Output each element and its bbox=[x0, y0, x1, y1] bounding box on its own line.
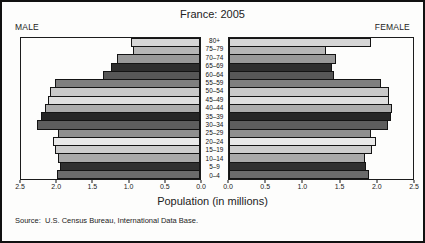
age-label-45-49: 45–49 bbox=[201, 96, 228, 104]
tick-label-2.5: 2.5 bbox=[15, 183, 25, 190]
age-label-70-74: 70–74 bbox=[201, 54, 228, 62]
age-label-80+: 80+ bbox=[201, 37, 228, 45]
tick-label-2.5: 2.5 bbox=[409, 183, 419, 190]
age-label-20-24: 20–24 bbox=[201, 138, 228, 146]
age-label-10-14: 10–14 bbox=[201, 155, 228, 163]
age-label-15-19: 15–19 bbox=[201, 146, 228, 154]
age-label-30-34: 30–34 bbox=[201, 121, 228, 129]
male-x-axis-ticks: 2.52.01.51.00.50.0 bbox=[20, 180, 201, 193]
tick-label-0.5: 0.5 bbox=[160, 183, 170, 190]
male-axis-header: MALE bbox=[15, 22, 39, 32]
tick-label-0.0: 0.0 bbox=[223, 183, 233, 190]
x-axis-title: Population (in millions) bbox=[2, 195, 423, 207]
tick-label-1.0: 1.0 bbox=[298, 183, 308, 190]
age-label-0-4: 0–4 bbox=[201, 172, 228, 180]
tick-label-2.0: 2.0 bbox=[372, 183, 382, 190]
population-pyramid-figure: France: 2005 MALE FEMALE 80+75–7970–7465… bbox=[0, 0, 425, 243]
age-label-40-44: 40–44 bbox=[201, 104, 228, 112]
age-label-35-39: 35–39 bbox=[201, 113, 228, 121]
age-axis-labels: 80+75–7970–7465–6960–6455–5950–5445–4940… bbox=[201, 37, 228, 180]
age-label-25-29: 25–29 bbox=[201, 129, 228, 137]
tick-label-0.0: 0.0 bbox=[196, 183, 206, 190]
tick-label-1.5: 1.5 bbox=[88, 183, 98, 190]
chart-title: France: 2005 bbox=[2, 8, 423, 20]
age-label-5-9: 5–9 bbox=[201, 163, 228, 171]
tick-label-2.0: 2.0 bbox=[51, 183, 61, 190]
female-plot-area bbox=[228, 37, 414, 180]
age-label-75-79: 75–79 bbox=[201, 45, 228, 53]
tick-label-1.0: 1.0 bbox=[124, 183, 134, 190]
bar-female-0-4 bbox=[229, 170, 369, 179]
tick-label-1.5: 1.5 bbox=[335, 183, 345, 190]
age-label-55-59: 55–59 bbox=[201, 79, 228, 87]
tick-label-0.5: 0.5 bbox=[260, 183, 270, 190]
age-label-50-54: 50–54 bbox=[201, 87, 228, 95]
female-x-axis-ticks: 0.00.51.01.52.02.5 bbox=[228, 180, 414, 193]
bar-male-0-4 bbox=[57, 170, 200, 179]
source-note: Source: U.S. Census Bureau, Internationa… bbox=[15, 216, 198, 225]
age-label-65-69: 65–69 bbox=[201, 62, 228, 70]
age-label-60-64: 60–64 bbox=[201, 71, 228, 79]
male-plot-area bbox=[20, 37, 201, 180]
female-axis-header: FEMALE bbox=[375, 22, 410, 32]
